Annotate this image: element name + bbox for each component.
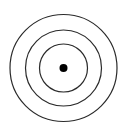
target-diagram [0,0,124,136]
center-dot [60,64,68,72]
